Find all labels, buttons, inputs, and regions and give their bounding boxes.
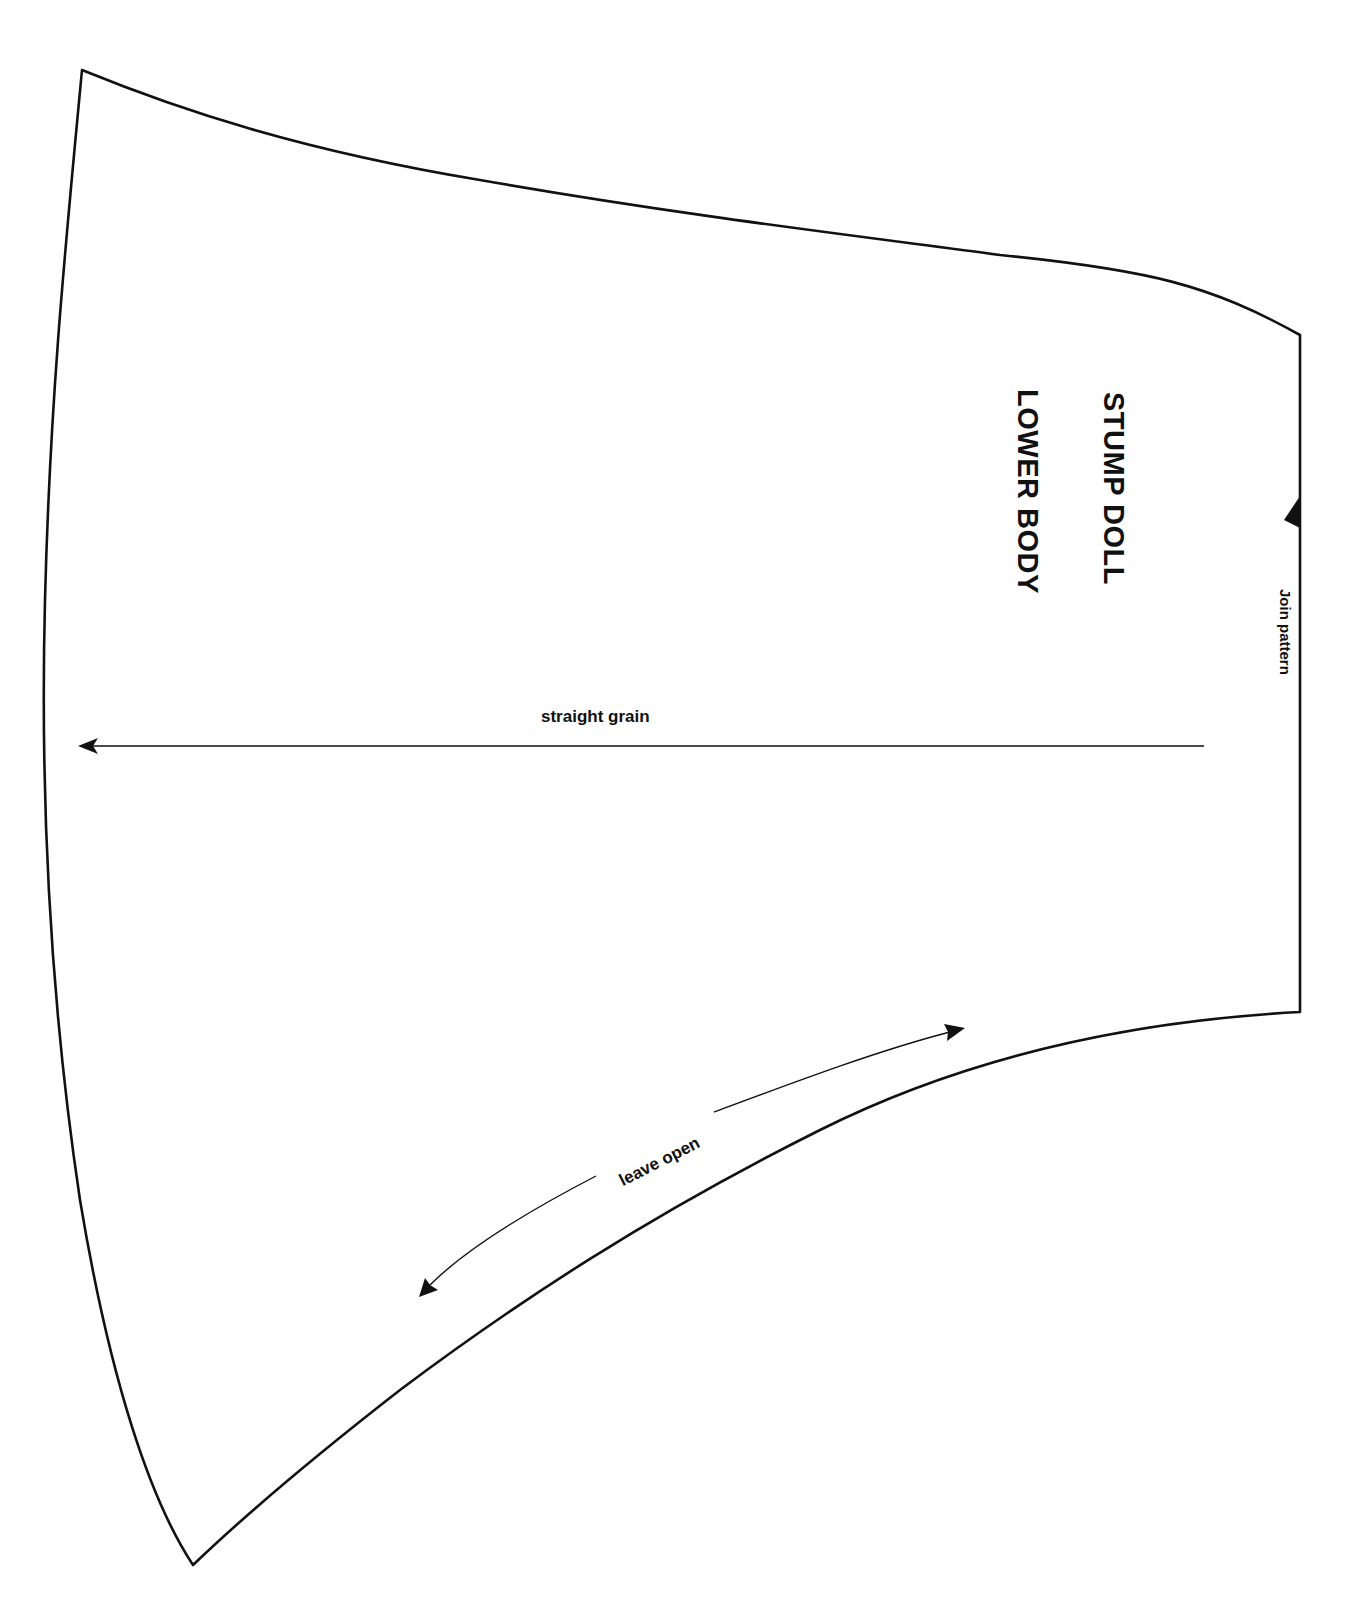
leave-open-line-lower: [430, 1176, 596, 1285]
leave-open-line-upper: [714, 1032, 950, 1112]
pattern-title-line1: STUMP DOLL: [1097, 392, 1130, 585]
pattern-piece: [0, 0, 1351, 1619]
join-notch-icon: [1284, 496, 1300, 528]
pattern-outline: [44, 70, 1300, 1565]
straight-grain-label: straight grain: [541, 707, 650, 727]
join-pattern-label: Join pattern: [1277, 589, 1294, 675]
pattern-title-line2: LOWER BODY: [1011, 389, 1044, 594]
